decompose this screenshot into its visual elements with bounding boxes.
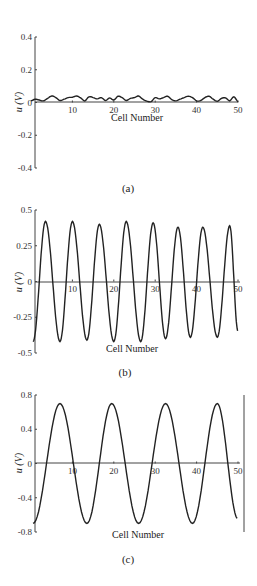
y-tick-label: 0.4	[21, 424, 33, 434]
y-axis-label: u (V)	[13, 271, 25, 292]
x-tick-label: 20	[109, 466, 119, 476]
data-line	[31, 96, 238, 102]
x-axis-label: Cell Number	[106, 343, 159, 354]
x-axis-label: Cell Number	[111, 112, 164, 123]
x-tick-label: 40	[192, 466, 202, 476]
y-tick-label: 0	[28, 98, 33, 108]
x-tick-label: 20	[109, 284, 119, 294]
y-tick-label: 0	[28, 459, 33, 469]
y-axis-label: u (V)	[13, 91, 25, 112]
y-tick-label: 0.25	[16, 241, 32, 251]
y-tick-label: -0.5	[18, 348, 33, 358]
y-tick-label: 0.4	[21, 32, 33, 42]
y-axis-label: u (V)	[13, 452, 25, 473]
y-tick-label: -0.25	[13, 312, 32, 322]
chart-panel-c: 0.80.40-0.4-0.8 1020304050 Cell Number u…	[13, 390, 244, 566]
x-tick-label: 10	[68, 466, 78, 476]
y-tick-label: 0	[28, 277, 33, 287]
caption-b: (b)	[119, 366, 132, 379]
caption-a: (a)	[122, 182, 135, 195]
y-tick-label: 0.5	[21, 205, 33, 215]
x-tick-label: 30	[151, 284, 161, 294]
figure: 0.40.20-0.2-0.4 1020304050 Cell Number u…	[0, 0, 257, 586]
x-tick-label: 50	[234, 466, 244, 476]
chart-panel-a: 0.40.20-0.2-0.4 1020304050 Cell Number u…	[13, 32, 243, 195]
y-tick-label: -0.4	[18, 493, 33, 503]
y-tick-label: -0.8	[18, 527, 33, 537]
y-tick-label: 0.8	[21, 390, 33, 400]
x-tick-label: 40	[192, 105, 202, 115]
y-tick-label: -0.4	[18, 163, 33, 173]
caption-c: (c)	[122, 553, 135, 566]
x-tick-label: 10	[68, 284, 78, 294]
x-ticks: 1020304050	[68, 462, 243, 476]
x-axis-label: Cell Number	[112, 529, 165, 540]
y-tick-label: 0.2	[21, 65, 32, 75]
y-tick-label: -0.2	[18, 130, 32, 140]
x-tick-label: 50	[234, 105, 244, 115]
chart-panel-b: 0.50.250-0.25-0.5 1020304050 Cell Number…	[13, 205, 243, 379]
x-tick-label: 10	[68, 105, 78, 115]
